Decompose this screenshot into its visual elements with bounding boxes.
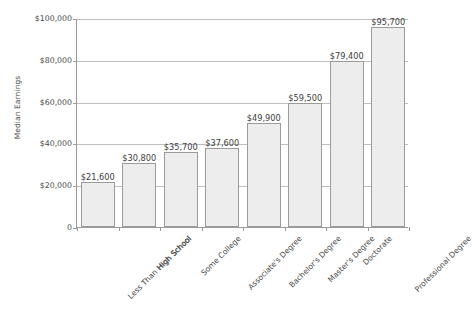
bar-value-label: $49,900 — [224, 113, 304, 123]
y-axis-tick-labels: 0$20,000$40,000$60,000$80,000$100,000 — [14, 0, 72, 315]
bar[interactable] — [164, 152, 198, 227]
bar-value-label: $21,600 — [58, 172, 138, 182]
bar[interactable] — [205, 148, 239, 227]
bar[interactable] — [81, 182, 115, 227]
bar-value-label: $95,700 — [348, 17, 428, 27]
x-axis-tick-label: High School — [155, 234, 193, 272]
bar-value-label: $79,400 — [307, 51, 387, 61]
y-axis-tick-label: $100,000 — [16, 14, 72, 23]
x-axis-tick-labels: Less Than High SchoolHigh SchoolSome Col… — [76, 228, 408, 315]
bar-value-label: $59,500 — [265, 93, 345, 103]
bar-value-label: $30,800 — [99, 153, 179, 163]
x-axis-tick-mark — [409, 227, 410, 231]
y-axis-tick-label: $20,000 — [16, 181, 72, 190]
y-axis-tick-label: $40,000 — [16, 139, 72, 148]
bar[interactable] — [330, 61, 364, 227]
x-axis-tick-label: Professional Degree — [413, 234, 473, 294]
y-axis-tick-label: $60,000 — [16, 98, 72, 107]
bar-value-label: $37,600 — [182, 138, 262, 148]
plot-area: $21,600$30,800$35,700$37,600$49,900$59,5… — [76, 19, 408, 228]
y-axis-tick-label: $80,000 — [16, 56, 72, 65]
x-axis-tick-label: Some College — [199, 234, 242, 277]
y-axis-tick-label: 0 — [16, 223, 72, 232]
